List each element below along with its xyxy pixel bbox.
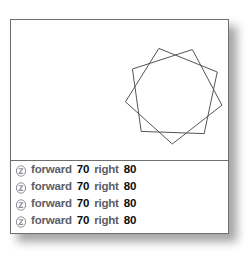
- command-turn-label: right: [94, 178, 119, 195]
- command-action-label: forward: [31, 161, 72, 178]
- command-action-label: forward: [31, 195, 72, 212]
- command-turn-value[interactable]: 80: [124, 161, 136, 178]
- turtle-graphics-window: forward 70 right 80 forward 70 right 80: [10, 19, 229, 234]
- command-action-value[interactable]: 70: [77, 178, 89, 195]
- turtle-icon: [15, 165, 27, 177]
- turtle-icon: [15, 199, 27, 211]
- turtle-canvas[interactable]: [11, 20, 228, 161]
- star-polygon-drawing: [11, 20, 229, 160]
- command-row-3[interactable]: forward 70 right 80: [11, 195, 228, 212]
- command-list: forward 70 right 80 forward 70 right 80: [11, 161, 228, 233]
- command-row-4[interactable]: forward 70 right 80: [11, 212, 228, 229]
- command-action-label: forward: [31, 212, 72, 229]
- command-action-value[interactable]: 70: [77, 212, 89, 229]
- command-turn-value[interactable]: 80: [124, 178, 136, 195]
- turtle-icon: [15, 182, 27, 194]
- command-turn-label: right: [94, 161, 119, 178]
- command-turn-value[interactable]: 80: [124, 195, 136, 212]
- command-turn-label: right: [94, 212, 119, 229]
- screenshot-root: forward 70 right 80 forward 70 right 80: [0, 0, 246, 264]
- turtle-icon: [15, 216, 27, 228]
- star-polygon-path: [125, 48, 221, 144]
- command-row-1[interactable]: forward 70 right 80: [11, 161, 228, 178]
- command-turn-label: right: [94, 195, 119, 212]
- command-action-label: forward: [31, 178, 72, 195]
- command-turn-value[interactable]: 80: [124, 212, 136, 229]
- command-row-2[interactable]: forward 70 right 80: [11, 178, 228, 195]
- command-action-value[interactable]: 70: [77, 161, 89, 178]
- command-action-value[interactable]: 70: [77, 195, 89, 212]
